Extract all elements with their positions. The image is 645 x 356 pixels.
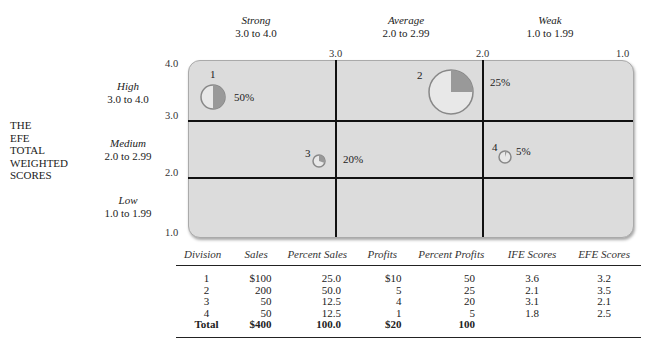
x-tick: 1.0 [616, 48, 629, 59]
grid-divider-horizontal [188, 120, 633, 122]
table-total-row: Total $400 100.0 $20 100 [176, 319, 641, 337]
column-header: IFE Scores [497, 246, 567, 266]
cell-efe-score: 2.1 [567, 296, 641, 308]
cell-total-efe [567, 319, 641, 337]
row-header-low: Low 1.0 to 1.99 [88, 194, 168, 220]
cell-division: 1 [176, 266, 237, 285]
column-header: Sales [237, 246, 276, 266]
table-row: 4 50 12.5 1 5 1.8 2.5 [176, 308, 641, 320]
y-tick: 2.0 [165, 167, 178, 178]
cell-total-percent-profits: 100 [405, 319, 497, 337]
column-header-weak: Weak 1.0 to 1.99 [490, 14, 610, 40]
y-axis-title-line: WEIGHTED [10, 157, 68, 170]
row-header-name: Low [88, 194, 168, 207]
row-header-range: 3.0 to 4.0 [88, 93, 168, 106]
cell-ife-score: 3.1 [497, 296, 567, 308]
pie-percent-label: 5% [516, 145, 531, 157]
pie-chart-division-3 [311, 153, 327, 169]
pie-percent-label: 50% [234, 91, 254, 103]
ie-matrix-grid [188, 60, 634, 238]
cell-total-ife [497, 319, 567, 337]
row-header-range: 1.0 to 1.99 [88, 207, 168, 220]
cell-percent-sales: 25.0 [275, 266, 359, 285]
row-header-range: 2.0 to 2.99 [88, 150, 168, 163]
row-header-name: Medium [88, 137, 168, 150]
y-axis-title-line: EFE [10, 132, 68, 145]
column-header-name: Weak [490, 14, 610, 27]
pie-chart-division-2 [427, 68, 475, 116]
division-data-table: Division Sales Percent Sales Profits Per… [176, 246, 641, 338]
x-tick: 3.0 [329, 48, 342, 59]
column-header: Percent Profits [405, 246, 497, 266]
column-header: Division [176, 246, 237, 266]
column-header-strong: Strong 3.0 to 4.0 [196, 14, 316, 40]
column-header-average: Average 2.0 to 2.99 [346, 14, 466, 40]
pie-chart-division-4 [497, 149, 513, 165]
cell-profits: 4 [359, 296, 405, 308]
grid-divider-vertical [482, 60, 484, 237]
grid-divider-vertical [335, 60, 337, 237]
pie-percent-label: 20% [343, 153, 363, 165]
column-header-name: Strong [196, 14, 316, 27]
y-tick: 1.0 [165, 227, 178, 238]
cell-percent-sales: 12.5 [275, 296, 359, 308]
column-header-range: 2.0 to 2.99 [346, 27, 466, 40]
cell-total-label: Total [176, 319, 237, 337]
cell-percent-profits: 20 [405, 296, 497, 308]
pie-division-label: 2 [417, 69, 423, 81]
cell-percent-profits: 50 [405, 266, 497, 285]
cell-efe-score: 2.5 [567, 308, 641, 320]
column-header: EFE Scores [567, 246, 641, 266]
table-header-row: Division Sales Percent Sales Profits Per… [176, 246, 641, 266]
pie-division-label: 1 [210, 68, 216, 80]
cell-percent-profits: 5 [405, 308, 497, 320]
cell-division: 3 [176, 296, 237, 308]
y-tick: 3.0 [165, 110, 178, 121]
cell-percent-profits: 25 [405, 285, 497, 297]
cell-ife-score: 1.8 [497, 308, 567, 320]
cell-efe-score: 3.2 [567, 266, 641, 285]
column-header-name: Average [346, 14, 466, 27]
table-row: 2 200 50.0 5 25 2.1 3.5 [176, 285, 641, 297]
row-header-high: High 3.0 to 4.0 [88, 80, 168, 106]
column-header-range: 3.0 to 4.0 [196, 27, 316, 40]
pie-percent-label: 25% [490, 76, 510, 88]
y-axis-title-line: THE [10, 119, 68, 132]
table-row: 1 $100 25.0 $10 50 3.6 3.2 [176, 266, 641, 285]
x-tick: 2.0 [476, 48, 489, 59]
y-axis-title-line: SCORES [10, 169, 68, 182]
cell-sales: $100 [237, 266, 276, 285]
cell-sales: 50 [237, 296, 276, 308]
row-header-name: High [88, 80, 168, 93]
y-axis-title-line: TOTAL [10, 144, 68, 157]
pie-division-label: 3 [305, 147, 311, 159]
row-header-medium: Medium 2.0 to 2.99 [88, 137, 168, 163]
cell-percent-sales: 50.0 [275, 285, 359, 297]
y-axis-title: THE EFE TOTAL WEIGHTED SCORES [10, 119, 68, 182]
cell-profits: $10 [359, 266, 405, 285]
cell-ife-score: 3.6 [497, 266, 567, 285]
cell-total-percent-sales: 100.0 [275, 319, 359, 337]
pie-chart-division-1 [199, 83, 227, 111]
column-header: Percent Sales [275, 246, 359, 266]
grid-divider-horizontal [188, 177, 633, 179]
cell-total-profits: $20 [359, 319, 405, 337]
cell-total-sales: $400 [237, 319, 276, 337]
y-tick: 4.0 [165, 58, 178, 69]
table-row: 3 50 12.5 4 20 3.1 2.1 [176, 296, 641, 308]
column-header: Profits [359, 246, 405, 266]
column-header-range: 1.0 to 1.99 [490, 27, 610, 40]
